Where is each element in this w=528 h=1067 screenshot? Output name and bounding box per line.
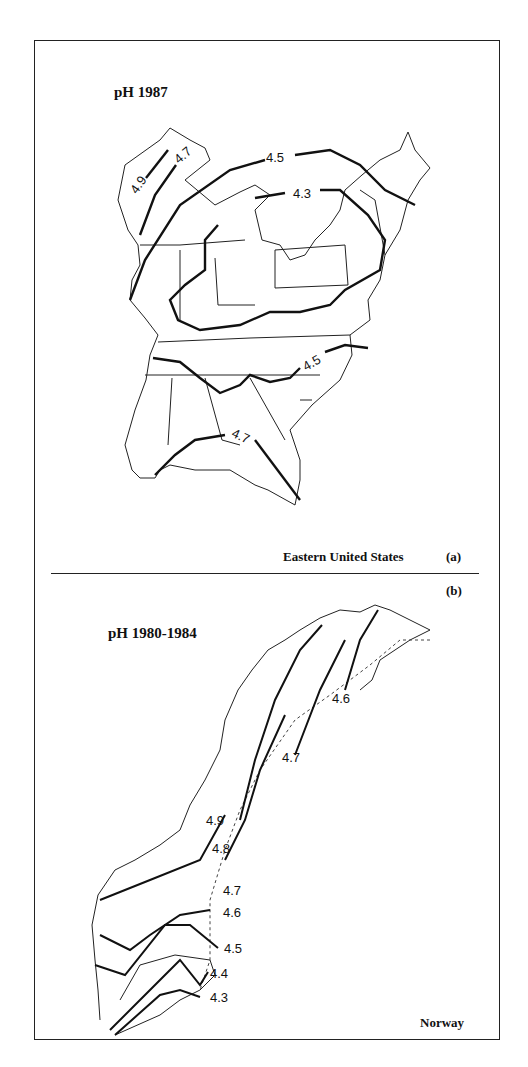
contour-label: 4.7 (171, 143, 194, 166)
panel-a-caption: Eastern United States (283, 549, 404, 565)
contour-label: 4.3 (293, 186, 311, 201)
panel-b-title: pH 1980-1984 (108, 625, 197, 642)
eastern-us-map: 4.9 4.7 4.5 4.3 4.5 4.7 (0, 0, 528, 540)
panel-b-letter: (b) (446, 583, 462, 599)
panel-b-caption: Norway (420, 1015, 464, 1031)
contour-label: 4.5 (266, 150, 284, 165)
contour-label: 4.5 (300, 352, 323, 374)
panel-a-letter: (a) (446, 549, 461, 565)
panel-separator (51, 573, 479, 574)
